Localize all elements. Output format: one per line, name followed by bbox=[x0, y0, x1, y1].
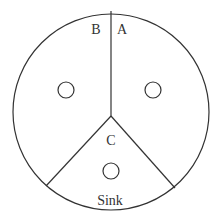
sector-b-label: B bbox=[91, 22, 100, 37]
sector-a-label: A bbox=[117, 22, 128, 37]
sink-label: Sink bbox=[97, 193, 123, 208]
sector-c-marker bbox=[103, 163, 119, 179]
sector-a-marker bbox=[145, 82, 161, 98]
spoke-left bbox=[46, 116, 111, 186]
sectored-circle-diagram: A B C Sink bbox=[0, 0, 219, 223]
sector-c-label: C bbox=[106, 133, 115, 148]
diagram-canvas: A B C Sink bbox=[0, 0, 219, 223]
spoke-right bbox=[111, 116, 175, 188]
sector-b-marker bbox=[58, 82, 74, 98]
